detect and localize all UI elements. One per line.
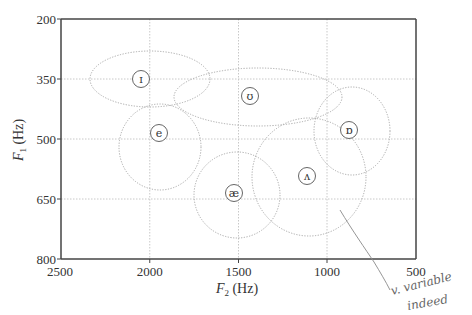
svg-text:ɒ: ɒ [345, 124, 352, 137]
axes [57, 19, 416, 263]
vowel-markers: ɪ ʊ e ɒ ʌ æ [133, 71, 358, 202]
x-tick-2000: 2000 [137, 264, 163, 279]
vowel-marker-v: ʌ [299, 168, 316, 185]
y-tick-350: 350 [37, 72, 57, 87]
handwritten-annotation: v. variable indeed [340, 210, 453, 313]
x-tick-2500: 2500 [47, 264, 73, 279]
x-tick-1500: 1500 [226, 264, 252, 279]
svg-text:e: e [156, 127, 163, 140]
vowel-marker-o: ɒ [341, 122, 358, 139]
svg-text:ʊ: ʊ [247, 90, 254, 103]
vowel-marker-u: ʊ [242, 88, 259, 105]
y-tick-labels: 200 350 500 650 800 [37, 12, 57, 267]
vowel-marker-i: ɪ [133, 71, 150, 88]
vowel-formant-chart: 200 350 500 650 800 2500 2000 1500 1000 … [0, 0, 472, 315]
x-tick-1000: 1000 [314, 264, 340, 279]
svg-text:ɪ: ɪ [139, 73, 143, 86]
x-tick-labels: 2500 2000 1500 1000 500 [47, 264, 426, 279]
vowel-marker-e: e [151, 125, 168, 142]
y-tick-650: 650 [37, 192, 57, 207]
ellipse-e [119, 104, 201, 190]
svg-text:ʌ: ʌ [303, 170, 311, 183]
gridlines [61, 19, 416, 259]
svg-text:æ: æ [229, 187, 239, 200]
y-axis-title: F1 (Hz) [11, 119, 28, 163]
y-tick-200: 200 [37, 12, 57, 27]
x-axis-title: F2 (Hz) [215, 281, 259, 298]
annotation-pointer-line [340, 210, 390, 290]
annotation-line2: indeed [406, 292, 449, 313]
vowel-marker-ae: æ [226, 185, 243, 202]
y-tick-500: 500 [37, 132, 57, 147]
